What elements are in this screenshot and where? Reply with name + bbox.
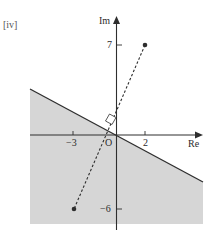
y-tick-label-minus6: −6 xyxy=(100,204,111,214)
panel-label: [iv] xyxy=(3,20,17,30)
y-tick-label-7: 7 xyxy=(107,40,112,50)
point-2-7 xyxy=(143,43,148,48)
diagram-svg xyxy=(0,0,213,235)
im-axis-label: Im xyxy=(99,16,110,26)
re-axis-label: Re xyxy=(188,139,199,149)
argand-diagram: [iv] Im Re 7 −6 −3 2 O xyxy=(0,0,213,235)
x-tick-label-minus3: −3 xyxy=(66,138,77,148)
imaginary-axis-arrow-icon xyxy=(113,16,120,24)
origin-label: O xyxy=(105,138,112,148)
x-tick-label-2: 2 xyxy=(143,138,148,148)
point-minus3-minus6 xyxy=(72,207,77,212)
